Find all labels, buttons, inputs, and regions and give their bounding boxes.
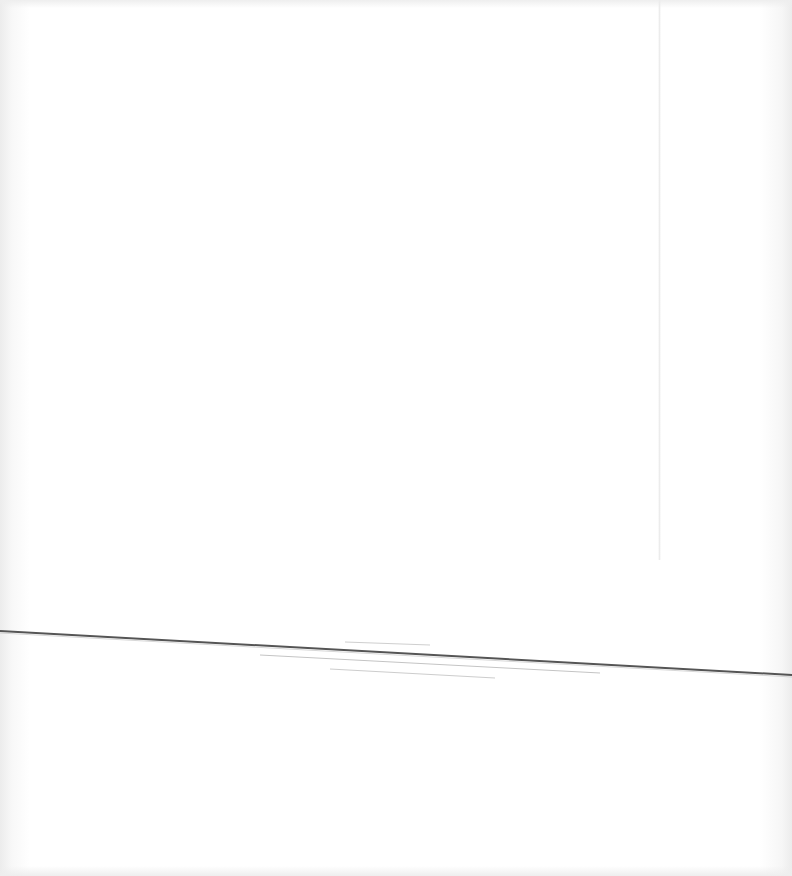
line-drawing	[0, 0, 792, 876]
faint-line	[330, 669, 495, 678]
faint-line	[345, 642, 430, 645]
bottom-edge-shadow	[0, 866, 792, 876]
main-diagonal-line-shadow	[0, 633, 792, 677]
main-diagonal-line	[0, 631, 792, 675]
blank-sheet	[0, 0, 792, 876]
